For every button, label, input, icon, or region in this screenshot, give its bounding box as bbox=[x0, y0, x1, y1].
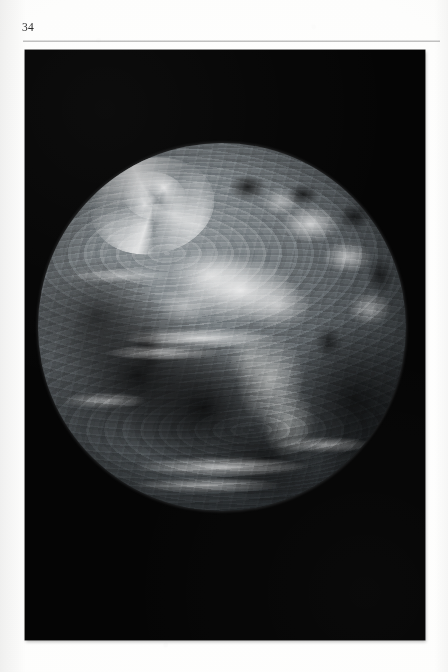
gutter-shadow bbox=[0, 0, 26, 672]
header-rule bbox=[23, 40, 440, 42]
photo-plate bbox=[25, 50, 425, 640]
page-sheet: 34 bbox=[0, 0, 448, 672]
page-number: 34 bbox=[22, 22, 34, 34]
earth-full-disk-photograph bbox=[38, 143, 406, 511]
limb-darkening-shading bbox=[38, 143, 406, 511]
page-edge-shadow bbox=[434, 0, 448, 672]
